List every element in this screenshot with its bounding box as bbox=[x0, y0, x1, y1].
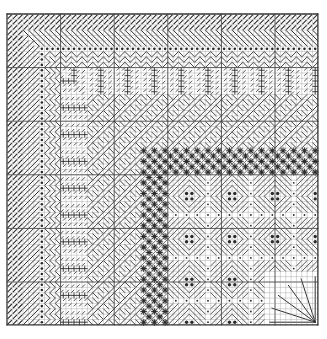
stitch-grid-canvas bbox=[0, 0, 327, 339]
stitch-layer bbox=[8, 15, 318, 325]
